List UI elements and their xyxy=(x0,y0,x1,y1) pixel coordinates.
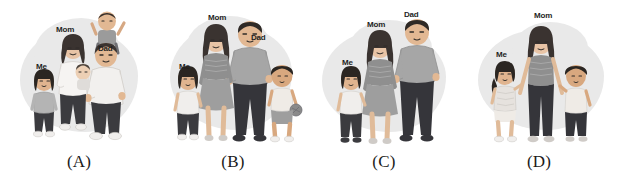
member-label-dad: Dad xyxy=(98,44,113,53)
figure-me xyxy=(488,60,522,144)
option-caption-b: (B) xyxy=(158,152,308,172)
figure-me xyxy=(172,66,204,144)
figure-mom xyxy=(518,24,564,144)
option-panel-b[interactable]: Me Mom Dad (B) xyxy=(158,0,308,192)
figure-mom-with-baby xyxy=(53,32,95,142)
option-panel-d[interactable]: Me Mom (D) xyxy=(460,0,618,192)
member-label-mom: Mom xyxy=(367,20,385,29)
member-label-dad: Dad xyxy=(404,10,419,19)
member-label-me: Me xyxy=(496,50,507,59)
figure-me xyxy=(335,66,367,146)
option-caption-a: (A) xyxy=(0,152,158,172)
member-label-dad: Dad xyxy=(251,33,266,42)
scene-c: Me Mom Dad xyxy=(308,0,460,152)
figure-boy xyxy=(560,62,594,144)
member-label-mom: Mom xyxy=(534,11,552,20)
member-label-mom: Mom xyxy=(56,25,74,34)
figure-boy-with-ball xyxy=(266,62,300,144)
scene-d: Me Mom xyxy=(460,0,618,152)
option-panel-a[interactable]: Me Mom Dad (A) xyxy=(0,0,158,192)
member-label-me: Me xyxy=(179,62,190,71)
member-label-me: Me xyxy=(36,62,47,71)
member-label-me: Me xyxy=(342,58,353,67)
scene-b: Me Mom Dad xyxy=(158,0,308,152)
member-label-mom: Mom xyxy=(208,13,226,22)
scene-a: Me Mom Dad xyxy=(0,0,158,152)
option-caption-d: (D) xyxy=(460,152,618,172)
option-caption-c: (C) xyxy=(308,152,460,172)
option-panel-c[interactable]: Me Mom Dad (C) xyxy=(308,0,460,192)
figure-canvas: Me Mom Dad (A) xyxy=(0,0,618,192)
figure-me xyxy=(29,68,59,142)
